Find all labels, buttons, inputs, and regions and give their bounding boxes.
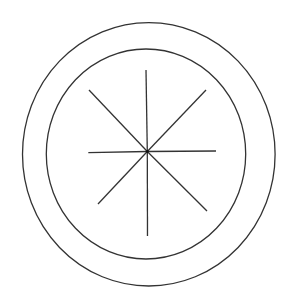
spoke-east <box>147 151 216 152</box>
outer-circle <box>23 23 276 286</box>
spoke-west <box>88 152 147 153</box>
spoke-south-west <box>98 152 147 205</box>
center-point <box>146 150 149 153</box>
spoke-north-west <box>89 90 147 152</box>
spokes-group <box>88 70 216 236</box>
spoke-north-east <box>147 90 206 152</box>
spoke-south-east <box>147 152 207 212</box>
circles-group <box>23 23 276 286</box>
spoke-north <box>146 70 147 152</box>
concentric-circles-spoke-diagram <box>0 0 294 308</box>
